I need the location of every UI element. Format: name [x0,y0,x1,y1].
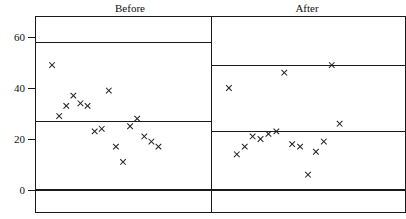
chart-container: Before After 60 40 20 0 [0,0,406,219]
y-tick-label-0: 0 [20,184,26,196]
y-tick-label-20: 20 [14,133,26,145]
plot-background [0,0,406,219]
panel-title-after: After [295,2,319,14]
y-tick-label-60: 60 [14,31,26,43]
scatter-plot-panels: Before After 60 40 20 0 [0,0,406,219]
y-tick-label-40: 40 [14,82,26,94]
panel-title-before: Before [115,2,145,14]
